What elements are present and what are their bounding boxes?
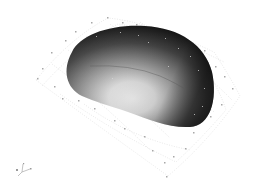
axis-triad [16,163,32,176]
blob-object[interactable] [67,26,214,127]
3d-viewport[interactable] [0,0,255,192]
blob-rim-shadow [67,26,214,127]
